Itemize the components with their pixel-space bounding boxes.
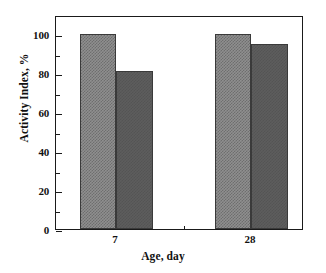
x-axis-tick-labels: 728 [0, 234, 326, 250]
y-tick-label: 80 [38, 69, 49, 80]
x-tick-label: 28 [245, 234, 256, 245]
y-tick-label: 20 [38, 186, 49, 197]
y-axis-title: Activity Index, % [18, 18, 30, 178]
y-tick-label: 40 [38, 147, 49, 158]
y-tick-major [56, 231, 62, 232]
bar [215, 34, 252, 229]
x-tick-label: 7 [112, 234, 118, 245]
bar [80, 34, 117, 229]
plot-area [55, 16, 303, 230]
x-axis-title: Age, day [0, 250, 326, 262]
y-tick-label: 100 [33, 30, 49, 41]
y-tick-label: 60 [38, 108, 49, 119]
bars-layer [56, 17, 302, 229]
bar [251, 44, 288, 229]
bar [116, 71, 153, 229]
chart-figure: 020406080100 Activity Index, % 728 Age, … [0, 0, 326, 273]
